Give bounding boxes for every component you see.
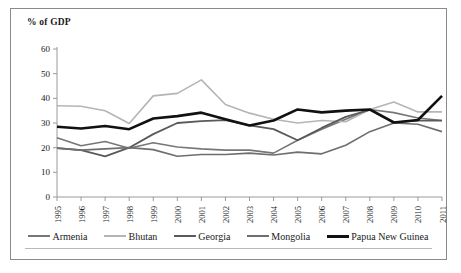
legend-label-papua-new-guinea: Papua New Guinea: [351, 231, 428, 242]
legend-item-georgia[interactable]: Georgia: [174, 231, 230, 242]
line-chart: 0102030405060199519961997199819992000200…: [11, 9, 448, 261]
legend-label-armenia: Armenia: [52, 231, 87, 242]
legend-item-mongolia[interactable]: Mongolia: [247, 231, 310, 242]
x-tick-label: 1999: [149, 206, 159, 223]
legend-item-bhutan[interactable]: Bhutan: [104, 231, 157, 242]
legend-swatch-bhutan: [104, 235, 126, 237]
x-tick-label: 1995: [53, 206, 63, 223]
x-tick-label: 2004: [269, 205, 279, 223]
x-tick-label: 2011: [438, 206, 448, 223]
x-tick-label: 2008: [365, 206, 375, 223]
legend-item-papua-new-guinea[interactable]: Papua New Guinea: [327, 231, 428, 242]
x-tick-label: 2009: [389, 206, 399, 223]
y-tick-label: 50: [41, 69, 51, 79]
x-tick-label: 1997: [101, 206, 111, 223]
x-tick-label: 2002: [221, 206, 231, 223]
chart-frame: % of GDP 0102030405060199519961997199819…: [10, 8, 447, 260]
x-tick-label: 1998: [125, 206, 135, 223]
x-tick-label: 1996: [77, 206, 87, 223]
x-tick-label: 2006: [317, 206, 327, 223]
x-tick-label: 2005: [293, 206, 303, 223]
legend-label-georgia: Georgia: [198, 231, 230, 242]
x-tick-label: 2000: [173, 206, 183, 223]
x-tick-label: 2001: [197, 206, 207, 223]
y-tick-label: 40: [41, 93, 51, 103]
y-tick-label: 0: [46, 192, 51, 202]
legend-label-bhutan: Bhutan: [128, 231, 157, 242]
legend-swatch-papua-new-guinea: [327, 235, 349, 238]
legend-swatch-mongolia: [247, 235, 269, 237]
legend-divider: [25, 248, 432, 249]
x-tick-label: 2010: [413, 206, 423, 223]
chart-legend: Armenia Bhutan Georgia Mongolia Papua Ne…: [12, 225, 445, 247]
x-tick-label: 2003: [245, 206, 255, 223]
x-tick-label: 2007: [341, 206, 351, 223]
legend-swatch-georgia: [174, 235, 196, 237]
legend-label-mongolia: Mongolia: [271, 231, 310, 242]
legend-swatch-armenia: [28, 235, 50, 237]
y-tick-label: 60: [41, 44, 51, 54]
legend-item-armenia[interactable]: Armenia: [28, 231, 87, 242]
y-tick-label: 30: [41, 118, 51, 128]
plot-area: 0102030405060199519961997199819992000200…: [11, 9, 448, 261]
y-tick-label: 10: [41, 167, 51, 177]
y-tick-label: 20: [41, 143, 51, 153]
